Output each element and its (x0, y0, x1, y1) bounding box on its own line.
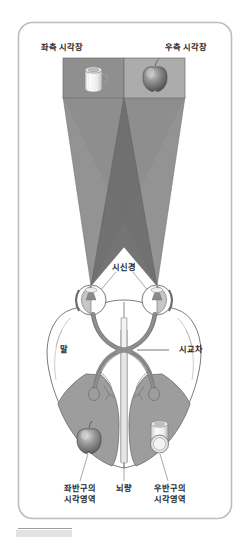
label-optic-chiasm: 시교차 (171, 345, 211, 356)
footer-bar (16, 529, 72, 538)
label-optic-nerve: 시신경 (99, 263, 149, 274)
relay-nucleus-left (89, 388, 100, 401)
visual-field-panels (63, 58, 185, 98)
label-right-visual-field: 우측 시각장 (124, 43, 248, 54)
right-eye (142, 285, 172, 315)
relay-nucleus-right (149, 388, 160, 401)
visual-pathway-figure: 좌측 시각장 우측 시각장 시신경 말 시교차 좌반구의 시각영역 뇌량 우반구… (0, 0, 248, 543)
label-right-hemisphere-visual-area: 우반구의 시각영역 (134, 484, 206, 505)
corpus-callosum (121, 318, 127, 463)
label-left-visual-field: 좌측 시각장 (0, 43, 124, 54)
label-eye: 말 (52, 345, 76, 356)
left-eye (76, 285, 106, 315)
